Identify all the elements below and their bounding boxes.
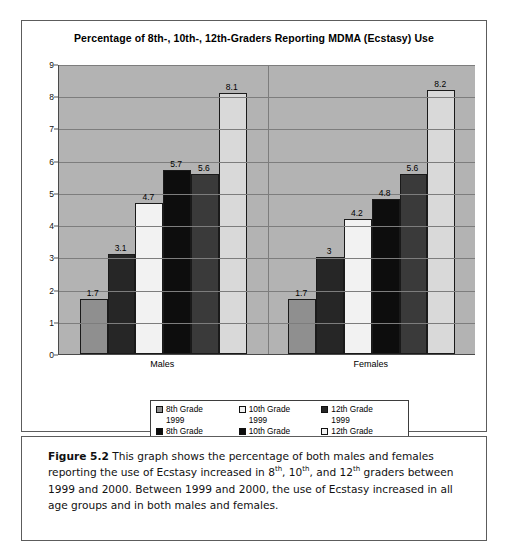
bar-value-label: 8.1: [226, 83, 238, 92]
y-axis: 0123456789: [40, 65, 58, 355]
bar-value-label: 5.7: [170, 160, 182, 169]
category-label: Females: [353, 359, 388, 369]
bar: [372, 199, 400, 354]
bar-value-label: 8.2: [434, 80, 446, 89]
figure-page: Percentage of 8th-, 10th-, 12th-Graders …: [0, 0, 511, 560]
bar: [108, 254, 136, 354]
legend-swatch-icon: [321, 428, 328, 435]
legend-item[interactable]: 10th Grade1999: [239, 404, 322, 425]
bar-value-label: 3.1: [115, 244, 127, 253]
bar: [344, 219, 372, 354]
plot-area: [58, 65, 475, 355]
bar-value-label: 3: [327, 247, 332, 256]
chart-panel: Percentage of 8th-, 10th-, 12th-Graders …: [21, 20, 487, 432]
chart-title: Percentage of 8th-, 10th-, 12th-Graders …: [22, 32, 486, 44]
category-label: Males: [150, 359, 174, 369]
bar-value-label: 5.6: [407, 164, 419, 173]
legend-swatch-icon: [156, 406, 163, 413]
bar: [316, 257, 344, 354]
legend-swatch-icon: [156, 428, 163, 435]
bar-value-label: 4.7: [142, 193, 154, 202]
bar: [163, 170, 191, 354]
bar: [191, 174, 219, 354]
bar: [400, 174, 428, 354]
bar: [288, 299, 316, 354]
caption-panel: Figure 5.2 This graph shows the percenta…: [21, 436, 487, 541]
legend-item[interactable]: 12th Grade1999: [321, 404, 404, 425]
bar-value-label: 4.2: [351, 209, 363, 218]
caption-text-3: , and 12: [310, 466, 354, 478]
bar-value-label: 1.7: [295, 289, 307, 298]
bar: [80, 299, 108, 354]
bar: [219, 93, 247, 354]
legend-label: 8th Grade1999: [166, 404, 203, 425]
legend-label: 10th Grade1999: [249, 404, 291, 425]
figure-label: Figure 5.2: [48, 450, 109, 462]
plot-wrapper: 0123456789 MalesFemales 1.73.14.75.75.68…: [40, 65, 475, 373]
bar-value-label: 1.7: [87, 289, 99, 298]
caption-text-2: , 10: [282, 466, 302, 478]
legend-item[interactable]: 8th Grade1999: [156, 404, 239, 425]
category-separator: [268, 65, 269, 354]
caption-sup-2: th: [302, 466, 309, 474]
bar-value-label: 5.6: [198, 164, 210, 173]
legend-swatch-icon: [239, 428, 246, 435]
legend-swatch-icon: [321, 406, 328, 413]
figure-caption: Figure 5.2 This graph shows the percenta…: [48, 448, 464, 514]
legend-swatch-icon: [239, 406, 246, 413]
bar-value-label: 4.8: [379, 189, 391, 198]
legend-label: 12th Grade1999: [331, 404, 373, 425]
